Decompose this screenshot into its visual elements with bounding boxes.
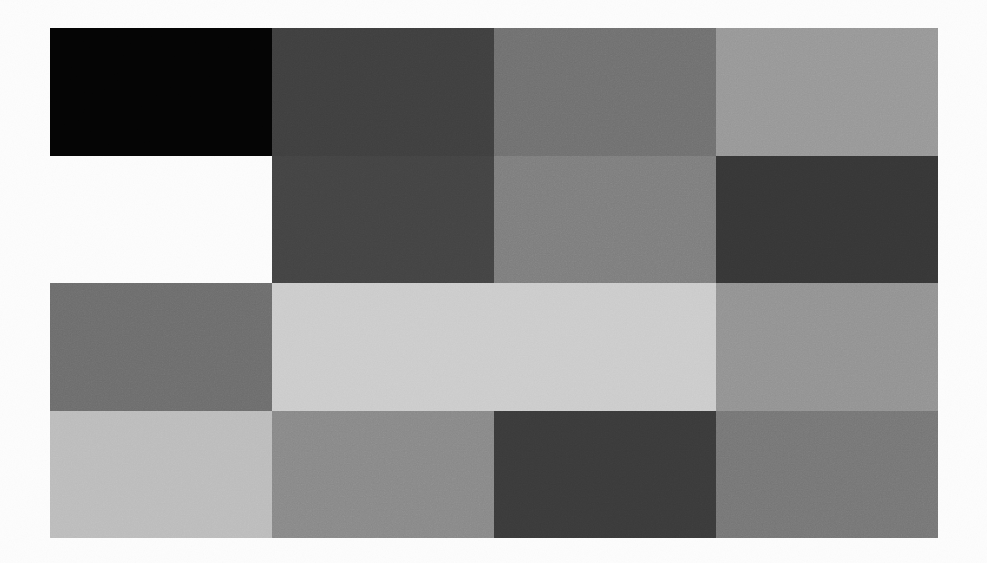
heatmap-cell-r2-c4: [716, 156, 938, 284]
heatmap-cell-r4-c1: [50, 411, 272, 539]
heatmap-cell-r4-c2: [272, 411, 494, 539]
heatmap-cell-r2-c3: [494, 156, 716, 284]
heatmap-cell-r3-c2: [272, 283, 494, 411]
heatmap-cell-r4-c4: [716, 411, 938, 539]
heatmap-cell-r1-c3: [494, 28, 716, 156]
heatmap-cell-r3-c1: [50, 283, 272, 411]
figure-canvas: [0, 0, 987, 563]
heatmap-cell-r1-c2: [272, 28, 494, 156]
heatmap-cell-r4-c3: [494, 411, 716, 539]
heatmap-cell-r2-c1: [50, 156, 272, 284]
heatmap-cell-r1-c1: [50, 28, 272, 156]
heatmap-cell-r2-c2: [272, 156, 494, 284]
heatmap-cell-r1-c4: [716, 28, 938, 156]
grayscale-patch-grid: [50, 28, 938, 538]
heatmap-cell-r3-c3: [494, 283, 716, 411]
heatmap-cell-r3-c4: [716, 283, 938, 411]
